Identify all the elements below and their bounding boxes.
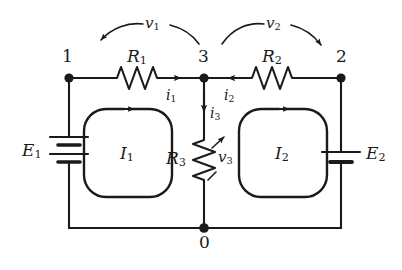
circuit-diagram-canvas: 1 3 2 0 R1 R2 R3 E1 E2 i1 i2 i3 v1 v2 v3… xyxy=(0,0,402,270)
node-label-3: 3 xyxy=(198,48,209,65)
node-label-0: 0 xyxy=(199,234,210,251)
voltage-subscript-v2: 2 xyxy=(274,21,280,32)
current-label-i1: i1 xyxy=(166,88,176,103)
resistor-R2-zigzag xyxy=(248,67,296,89)
node-label-1: 1 xyxy=(62,48,73,65)
resistor-subscript-R2: 2 xyxy=(275,54,282,67)
current-subscript-i3: 3 xyxy=(214,111,220,122)
source-label-E1: E1 xyxy=(22,142,42,161)
node-dot-1 xyxy=(64,73,73,82)
mesh-label-I1: I1 xyxy=(120,145,134,164)
resistor-symbol-R1: R xyxy=(127,46,140,66)
current-label-i3: i3 xyxy=(210,106,220,121)
source-symbol-E1: E xyxy=(22,140,34,160)
resistor-subscript-R1: 1 xyxy=(140,54,147,67)
node-dot-2 xyxy=(336,73,345,82)
voltage-label-v2: v2 xyxy=(266,16,281,32)
battery-E1-plates xyxy=(50,137,88,162)
voltage-label-v1: v1 xyxy=(145,16,160,32)
source-label-E2: E2 xyxy=(366,145,386,164)
current-subscript-i1: 1 xyxy=(170,93,176,104)
voltage-subscript-v1: 1 xyxy=(153,21,159,32)
source-subscript-E2: 2 xyxy=(378,151,385,164)
mesh-subscript-I2: 2 xyxy=(282,151,289,164)
mesh-label-I2: I2 xyxy=(275,145,289,164)
resistor-label-R3: R3 xyxy=(166,150,186,169)
mesh-symbol-I2: I xyxy=(275,143,282,163)
source-symbol-E2: E xyxy=(366,143,378,163)
resistor-label-R2: R2 xyxy=(262,48,282,67)
voltage-label-v3: v3 xyxy=(218,150,233,166)
current-subscript-i2: 2 xyxy=(228,93,234,104)
resistor-symbol-R2: R xyxy=(262,46,275,66)
circuit-schematic-svg xyxy=(0,0,402,270)
source-subscript-E1: 1 xyxy=(34,148,41,161)
voltage-subscript-v3: 3 xyxy=(226,155,232,166)
resistor-symbol-R3: R xyxy=(166,148,179,168)
mesh-symbol-I1: I xyxy=(120,143,127,163)
resistor-label-R1: R1 xyxy=(127,48,147,67)
resistor-R1-zigzag xyxy=(113,67,161,89)
node-label-2: 2 xyxy=(336,48,347,65)
current-label-i2: i2 xyxy=(224,88,234,103)
mesh-subscript-I1: 1 xyxy=(127,151,134,164)
resistor-subscript-R3: 3 xyxy=(179,156,186,169)
node-dot-3 xyxy=(199,73,208,82)
